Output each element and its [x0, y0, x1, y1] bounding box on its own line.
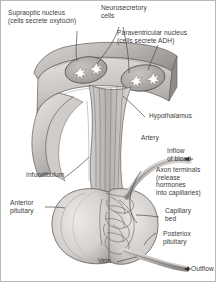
infundibulum-stalk [87, 85, 131, 193]
label-anterior-pituitary: Anterior pituitary [10, 199, 34, 214]
label-capillary-bed: Capillary bed [165, 207, 191, 222]
leader-infundibulum [64, 157, 89, 178]
label-artery: Artery [141, 134, 159, 142]
label-paraventricular-nucleus: Paraventricular nucleus (cells secrete A… [117, 29, 187, 44]
label-infundibulum: Infundibulum [26, 171, 64, 179]
label-outflow: Outflow [191, 265, 214, 273]
hypothalamus-pituitary-figure: Supraoptic nucleus (cells secrete oxytoc… [0, 0, 216, 282]
label-inflow-of-blood: Inflow of blood [167, 147, 191, 162]
leader-hypothalamus [123, 96, 145, 117]
label-posterior-pituitary: Posteriox pituitary [163, 230, 191, 245]
label-vein: Vein [98, 257, 111, 265]
label-hypothalamus: Hypothalamus [149, 112, 192, 120]
label-axon-terminals: Axon terminals (release hormones into ca… [156, 166, 201, 196]
label-neurosecretory-cells: Neurosecretory cells [101, 4, 147, 19]
label-supraoptic-nucleus: Supraoptic nucleus (cells secrete oxytoc… [8, 9, 76, 24]
